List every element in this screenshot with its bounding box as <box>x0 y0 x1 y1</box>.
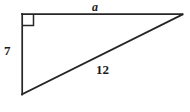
horizontal-leg-label: a <box>92 1 98 13</box>
right-angle-square-icon <box>23 15 34 26</box>
hypotenuse-line <box>22 15 183 95</box>
right-triangle-diagram: a 7 12 <box>0 0 190 112</box>
triangle-figure <box>0 0 190 112</box>
vertical-leg-label: 7 <box>4 44 11 57</box>
hypotenuse-label: 12 <box>96 63 109 76</box>
